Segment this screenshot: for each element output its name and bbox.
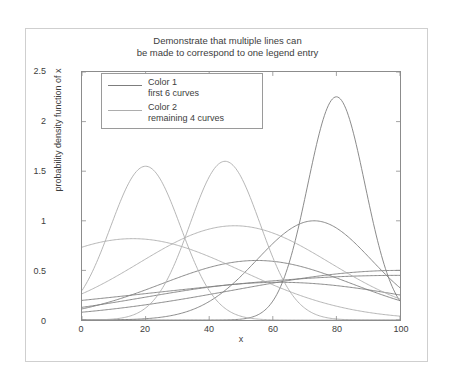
- x-tick-label-80: 80: [322, 325, 352, 334]
- y-axis-label: probability density function of x: [53, 30, 63, 230]
- x-tick-label-60: 60: [258, 325, 288, 334]
- y-tick-label-0.5: 0.5: [33, 267, 46, 276]
- y-tick-label-2.5: 2.5: [33, 67, 46, 76]
- curve-curve-3: [82, 260, 400, 308]
- legend-entry-color-2[interactable]: Color 2 remaining 4 curves: [102, 102, 262, 127]
- legend-label-color-1: Color 1 first 6 curves: [148, 77, 199, 99]
- figure-frame: Demonstrate that multiple lines can be m…: [25, 28, 428, 362]
- legend-line-sample-color-1: [108, 85, 142, 86]
- legend-line-sample-color-2: [108, 110, 142, 111]
- y-tick-label-1.5: 1.5: [33, 167, 46, 176]
- curve-curve-7: [82, 166, 400, 320]
- curve-curve-9: [82, 239, 400, 316]
- y-tick-label-1: 1: [41, 217, 46, 226]
- y-tick-label-0: 0: [41, 317, 46, 326]
- curves-group: [82, 97, 400, 320]
- x-tick-label-0: 0: [66, 325, 96, 334]
- legend-label-color-2: Color 2 remaining 4 curves: [148, 102, 224, 124]
- legend-entry-color-1[interactable]: Color 1 first 6 curves: [102, 77, 262, 102]
- x-axis-label: x: [81, 334, 401, 344]
- x-tick-label-100: 100: [386, 325, 416, 334]
- curve-curve-6: [82, 282, 400, 307]
- legend[interactable]: Color 1 first 6 curves Color 2 remaining…: [101, 73, 263, 129]
- x-tick-label-20: 20: [130, 325, 160, 334]
- curve-curve-1: [82, 97, 400, 320]
- y-tick-label-2: 2: [41, 117, 46, 126]
- x-tick-label-40: 40: [194, 325, 224, 334]
- chart-title: Demonstrate that multiple lines can be m…: [26, 35, 429, 59]
- curve-curve-10: [82, 226, 400, 299]
